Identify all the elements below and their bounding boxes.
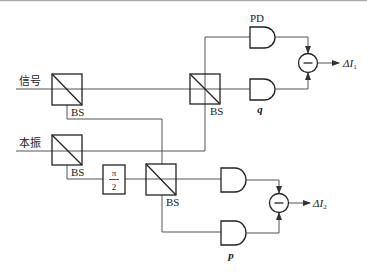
delta-i1-label: ΔI1 [342,57,357,71]
delta-i1-sub: 1 [353,63,357,71]
photodetector-p [221,221,246,245]
subtractor-2 [270,194,289,213]
photodetector-q [250,79,275,100]
homodyne-diagram: BS BS BS BS π 2 信号 本振 PD q p [0,0,367,273]
phase-numerator: π [112,168,117,178]
delta-i2-label: ΔI2 [312,197,327,211]
beam-paths [16,37,250,232]
bs4-label: BS [166,196,179,208]
phase-denominator: 2 [112,182,117,192]
photodetector-1 [250,27,275,48]
subtractor-1 [299,54,318,73]
bs3-label: BS [71,166,84,178]
pd-label: PD [250,12,264,24]
photodetector-3 [221,168,246,192]
quadrature-q-label: q [257,103,263,115]
bs2-label: BS [210,105,223,117]
bs1-label: BS [71,106,84,118]
delta-i2-sub: 2 [323,203,327,211]
beam-splitter-3 [52,135,82,165]
quadrature-p-label: p [227,249,234,261]
signal-input-label: 信号 [19,75,41,87]
local-oscillator-label: 本振 [19,136,41,149]
